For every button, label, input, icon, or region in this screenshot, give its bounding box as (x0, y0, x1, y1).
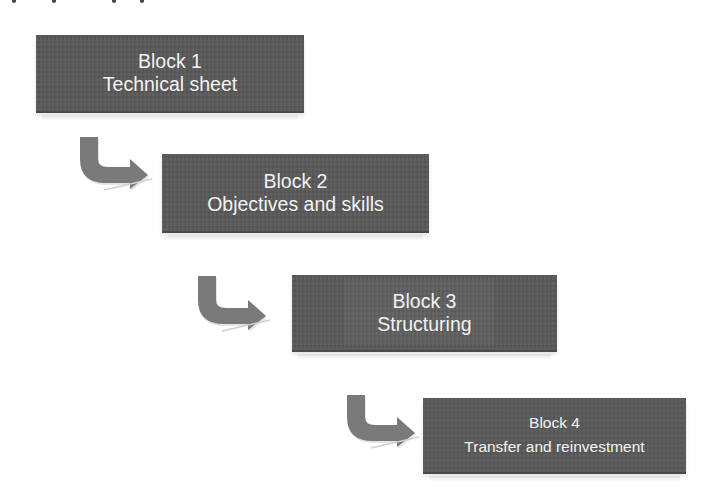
block-1-title: Block 1 (138, 50, 202, 73)
block-2: Block 2 Objectives and skills (162, 154, 429, 231)
block-4: Block 4 Transfer and reinvestment (423, 398, 686, 472)
block-4-subtitle: Transfer and reinvestment (464, 435, 644, 459)
block-3: Block 3 Structuring (292, 275, 557, 350)
block-3-title: Block 3 (393, 290, 457, 313)
block-1: Block 1 Technical sheet (36, 35, 304, 111)
block-2-subtitle: Objectives and skills (207, 193, 384, 216)
block-1-subtitle: Technical sheet (103, 73, 237, 96)
cropped-text-fragments (0, 0, 250, 4)
curved-arrow-down-right-icon (74, 135, 154, 193)
block-4-reflection (429, 476, 680, 482)
block-1-reflection (42, 115, 298, 121)
block-2-reflection (168, 235, 423, 241)
block-3-subtitle: Structuring (377, 313, 471, 336)
block-3-reflection (298, 354, 551, 360)
curved-arrow-down-right-icon (341, 393, 421, 451)
block-2-title: Block 2 (264, 170, 328, 193)
curved-arrow-down-right-icon (192, 274, 272, 334)
block-4-title: Block 4 (529, 411, 580, 435)
